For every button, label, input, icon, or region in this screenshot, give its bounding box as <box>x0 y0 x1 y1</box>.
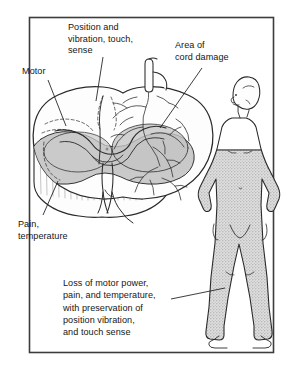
label-position-vibration-touch: Position and vibration, touch, sense <box>68 22 133 57</box>
label-motor: Motor <box>22 66 46 78</box>
label-area-of-cord-damage: Area of cord damage <box>175 40 229 63</box>
label-pain-temperature: Pain, temperature <box>18 219 68 242</box>
face-eye <box>235 94 237 96</box>
central-canal <box>106 148 109 151</box>
caption-sensory-loss-summary: Loss of motor power, pain, and temperatu… <box>63 277 156 338</box>
head <box>233 77 260 109</box>
